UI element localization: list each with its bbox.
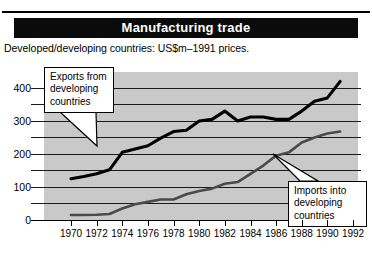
x-tick-1986 bbox=[276, 220, 277, 226]
x-tick-1970 bbox=[71, 220, 72, 226]
x-tick-label-1992: 1992 bbox=[336, 228, 370, 239]
annotation-exports-line3: countries bbox=[50, 96, 108, 108]
x-tick-1974 bbox=[122, 220, 123, 226]
annotation-imports-line2: developing bbox=[294, 197, 361, 209]
x-tick-1980 bbox=[199, 220, 200, 226]
imports-callout-leader bbox=[273, 154, 318, 181]
x-tick-1992 bbox=[353, 220, 354, 226]
annotation-exports-line1: Exports from bbox=[50, 71, 108, 83]
annotation-exports: Exports from developing countries bbox=[44, 67, 114, 113]
x-tick-1978 bbox=[174, 220, 175, 226]
x-tick-1972 bbox=[97, 220, 98, 226]
x-axis-ticks bbox=[0, 220, 372, 228]
x-tick-1982 bbox=[225, 220, 226, 226]
x-tick-1990 bbox=[327, 220, 328, 226]
annotation-exports-line2: developing bbox=[50, 83, 108, 95]
x-tick-1976 bbox=[148, 220, 149, 226]
annotation-imports-line1: Imports into bbox=[294, 185, 361, 197]
exports-callout-leader bbox=[60, 112, 97, 146]
chart-figure: Manufacturing trade Developed/developing… bbox=[0, 0, 372, 257]
x-tick-1984 bbox=[251, 220, 252, 226]
x-axis-labels: 1970197219741976197819801982198419861988… bbox=[0, 228, 372, 242]
x-tick-1988 bbox=[302, 220, 303, 226]
